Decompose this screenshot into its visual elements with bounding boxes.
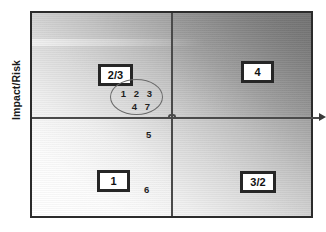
plot-interior: 2/3 4 1 3/2 1 2 3 4 7 5 6 — [32, 13, 311, 216]
quadrant-box-bottom-left: 1 — [97, 170, 130, 192]
axis-crossing-notch — [168, 114, 176, 118]
cluster-item-7: 7 — [145, 102, 151, 112]
cluster-row-top: 1 2 3 — [111, 89, 162, 99]
quadrant-box-top-right: 4 — [241, 61, 274, 83]
quadrant-matrix-plot: 2/3 4 1 3/2 1 2 3 4 7 5 6 — [30, 11, 313, 218]
cluster-row-bottom: 4 7 — [111, 102, 162, 112]
cluster-item-1: 1 — [121, 89, 127, 99]
cluster-oval: 1 2 3 4 7 — [110, 79, 163, 115]
cluster-item-4: 4 — [132, 102, 138, 112]
quadrant-box-bottom-right: 3/2 — [240, 171, 276, 193]
data-point-5: 5 — [146, 130, 151, 140]
axis-arrowhead-icon — [319, 113, 326, 121]
y-axis-label: Impact/Risk — [10, 40, 30, 140]
data-point-6: 6 — [144, 185, 149, 195]
cluster-item-2: 2 — [134, 89, 140, 99]
cluster-item-3: 3 — [147, 89, 153, 99]
chart-canvas: Impact/Risk 2/3 4 1 3/2 1 2 — [0, 0, 326, 232]
